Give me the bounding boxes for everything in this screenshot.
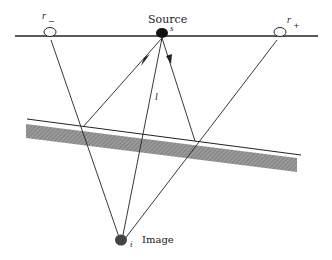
image-label: Image [142,234,174,245]
path-length-label: l [155,91,158,102]
receiver-plus-icon [274,28,286,37]
receiver-minus-label: r [42,10,46,21]
arrowhead-right-icon [166,54,172,64]
source-symbol-label: s [170,23,174,33]
source-ray-right [162,38,195,141]
source-ray-left [83,38,162,127]
receiver-minus-subscript: − [48,17,55,26]
source-label: Source [148,13,187,26]
receiver-plus-subscript: + [293,21,300,30]
image-symbol-label: i [130,239,133,249]
receiver-plus-label: r [287,14,291,25]
reflector-layer-hatched [26,124,297,172]
source-point-icon [156,28,168,38]
reflection-geometry-diagram: Source s r − r + l i Image [0,0,332,260]
receiver-minus-icon [44,28,56,37]
image-point-icon [115,235,127,246]
